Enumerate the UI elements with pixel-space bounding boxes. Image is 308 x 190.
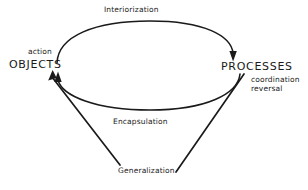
edge-label-encapsulation: Encapsulation (113, 117, 168, 126)
generalization-left-leg (52, 77, 120, 165)
generalization-right-leg (176, 74, 244, 172)
edge-encapsulation (54, 72, 240, 111)
edge-label-generalization: Generalization (118, 166, 175, 175)
edge-label-interiorization: Interiorization (104, 5, 159, 14)
apos-diagram: OBJECTS PROCESSES action coordination re… (0, 0, 308, 190)
arrowhead-into-objects-generalization (48, 70, 56, 81)
node-objects: OBJECTS (9, 59, 62, 71)
annotation-reversal: reversal (251, 84, 282, 94)
diagram-canvas (0, 0, 308, 190)
edge-interiorization (57, 21, 237, 63)
annotation-action: action (28, 47, 52, 57)
node-processes: PROCESSES (221, 61, 293, 73)
